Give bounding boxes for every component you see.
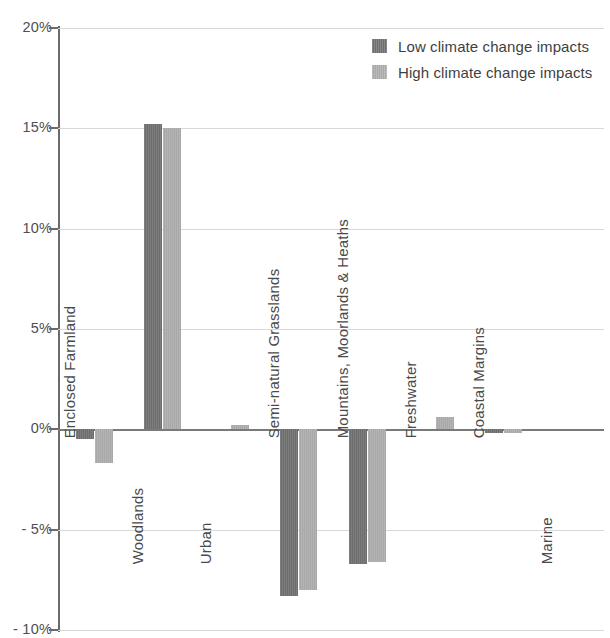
- bar-high: [299, 429, 317, 590]
- bar-low: [76, 429, 94, 439]
- gridline: [58, 630, 604, 631]
- chart-legend: Low climate change impactsHigh climate c…: [372, 33, 608, 85]
- y-axis-tick: [49, 629, 58, 631]
- bar-chart: 20%15%10%5%0%- 5%- 10% Enclosed Farmland…: [0, 0, 610, 638]
- legend-swatch-low: [372, 39, 387, 53]
- legend-item: Low climate change impacts: [372, 33, 608, 59]
- legend-item: High climate change impacts: [372, 59, 608, 85]
- legend-label: Low climate change impacts: [398, 38, 589, 55]
- y-axis-tick: [49, 228, 58, 230]
- bar-high: [231, 425, 249, 429]
- category-group: Enclosed Farmland: [58, 28, 126, 630]
- bar-high: [163, 128, 181, 429]
- y-axis-tick-label: 5%: [0, 320, 52, 336]
- y-axis-labels: 20%15%10%5%0%- 5%- 10%: [0, 28, 52, 630]
- category-label: Urban: [197, 522, 214, 564]
- category-label: Coastal Margins: [470, 327, 487, 438]
- bar-high: [95, 429, 113, 463]
- category-group: Freshwater: [399, 28, 467, 630]
- y-axis-tick: [49, 529, 58, 531]
- bar-high: [504, 429, 522, 433]
- category-group: Marine: [536, 28, 604, 630]
- legend-label: High climate change impacts: [398, 64, 592, 81]
- category-label: Marine: [538, 517, 555, 564]
- legend-swatch-high: [372, 65, 387, 79]
- bar-high: [368, 429, 386, 561]
- y-axis-tick: [49, 27, 58, 29]
- y-axis-tick: [49, 428, 58, 430]
- category-group: Urban: [195, 28, 263, 630]
- category-label: Woodlands: [129, 488, 146, 565]
- category-group: Mountains, Moorlands & Heaths: [331, 28, 399, 630]
- bar-low: [144, 124, 162, 429]
- y-axis-tick-label: 20%: [0, 19, 52, 35]
- y-axis-tick: [49, 328, 58, 330]
- y-axis-tick-label: 0%: [0, 420, 52, 436]
- bar-low: [485, 429, 503, 433]
- bar-high: [436, 417, 454, 429]
- category-label: Semi-natural Grasslands: [265, 269, 282, 439]
- category-label: Mountains, Moorlands & Heaths: [334, 219, 351, 438]
- y-axis-tick-label: 10%: [0, 220, 52, 236]
- category-label: Enclosed Farmland: [61, 306, 78, 439]
- category-label: Freshwater: [402, 361, 419, 438]
- bar-low: [280, 429, 298, 596]
- category-group: Semi-natural Grasslands: [263, 28, 331, 630]
- y-axis-tick-label: - 10%: [0, 621, 52, 637]
- y-axis-tick-label: - 5%: [0, 521, 52, 537]
- y-axis-tick-label: 15%: [0, 119, 52, 135]
- plot-area: Enclosed FarmlandWoodlandsUrbanSemi-natu…: [58, 28, 604, 630]
- category-group: Woodlands: [126, 28, 194, 630]
- y-axis-tick: [49, 127, 58, 129]
- category-group: Coastal Margins: [468, 28, 536, 630]
- bar-low: [349, 429, 367, 563]
